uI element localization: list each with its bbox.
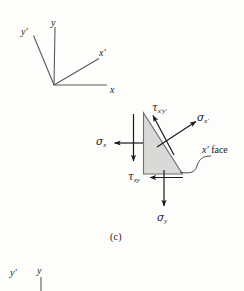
next-figure-label-y: y (37, 266, 41, 276)
label-tau-xy: τxy (128, 171, 140, 183)
label-tau-xprime-yprime: τx′y′ (152, 102, 167, 114)
axis-label-x: x (110, 85, 114, 95)
tau-symbol: τ (128, 170, 134, 182)
next-figure-label-y-prime: y′ (10, 268, 17, 278)
axes-group (34, 27, 108, 85)
sigma-y-subscript: y (164, 217, 167, 224)
axis-label-y: y (51, 18, 55, 28)
label-sigma-xprime: σx′ (197, 112, 209, 124)
x-prime-face-word: face (209, 144, 228, 155)
axis-y-line (54, 27, 55, 85)
label-sigma-y: σy (157, 212, 167, 224)
sigma-x-subscript: x (103, 141, 106, 148)
axis-label-y-prime: y′ (21, 27, 28, 37)
x-prime-face-leader (180, 156, 211, 173)
tau-xprime-yprime-subscript: x′y′ (158, 107, 167, 114)
label-x-prime-face: x′ face (202, 145, 228, 155)
tau-xy-subscript: xy (134, 176, 140, 183)
axis-label-x-prime: x′ (99, 48, 106, 58)
tau-symbol: τ (152, 101, 158, 113)
figure-panel: y′ y x′ x τx′y′ σx′ σx τxy σy x′ face (c… (0, 0, 244, 291)
axis-y-prime-line (34, 36, 55, 86)
axis-x-prime-line (54, 59, 99, 86)
x-prime-face-symbol: x′ (202, 144, 209, 155)
sigma-xprime-subscript: x′ (204, 117, 208, 124)
label-sigma-x: σx (96, 136, 106, 148)
figure-caption: (c) (110, 231, 122, 242)
